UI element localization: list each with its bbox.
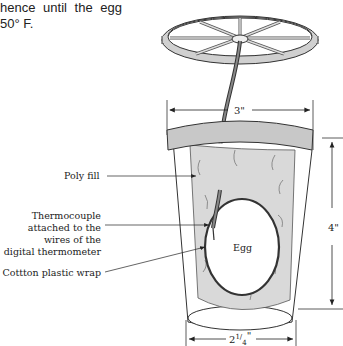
svg-text:attached to the: attached to the [28,222,102,233]
egg-insulation-diagram: 3" Egg [0,0,343,346]
svg-text:Poly fill: Poly fill [64,170,100,181]
svg-text:Cottton plastic wrap: Cottton plastic wrap [2,267,101,278]
svg-text:Egg: Egg [233,242,252,253]
svg-text:4": 4" [328,222,339,233]
wheel-icon [162,16,318,64]
label-thermocouple: Thermocouple attached to the wires of th… [4,210,209,257]
svg-text:3": 3" [234,105,245,116]
svg-text:21/4": 21/4" [229,330,251,346]
svg-text:Thermocouple: Thermocouple [32,210,102,221]
svg-text:wires of the: wires of the [44,234,101,245]
svg-text:digital thermometer: digital thermometer [4,246,102,257]
